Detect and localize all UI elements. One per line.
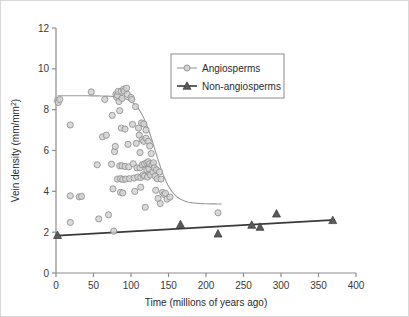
data-point-angiosperm (153, 187, 159, 193)
data-point-angiosperm (112, 143, 118, 149)
data-point-non-angiosperm (273, 210, 281, 217)
angiosperm-points (54, 85, 221, 234)
data-point-angiosperm (108, 161, 114, 167)
x-tick-label: 50 (88, 280, 100, 291)
data-point-angiosperm (67, 219, 73, 225)
data-point-angiosperm (102, 96, 108, 102)
data-point-angiosperm (141, 121, 147, 127)
x-tick-label: 250 (235, 280, 252, 291)
x-tick-label: 0 (53, 280, 59, 291)
data-point-angiosperm (111, 228, 117, 234)
legend-label-angiosperms: Angiosperms (202, 63, 260, 74)
data-point-angiosperm (67, 193, 73, 199)
data-point-angiosperm (122, 126, 128, 132)
data-point-angiosperm (133, 140, 139, 146)
data-point-angiosperm (110, 186, 116, 192)
data-point-angiosperm (147, 143, 153, 149)
chart-figure: 050100150200250300350400024681012Time (m… (0, 0, 409, 317)
data-point-angiosperm (132, 188, 138, 194)
data-point-angiosperm (215, 210, 221, 216)
x-tick-label: 350 (310, 280, 327, 291)
data-point-angiosperm (123, 85, 129, 91)
data-point-angiosperm (157, 200, 163, 206)
data-point-angiosperm (109, 112, 115, 118)
y-axis-title: Vein density (mm/mm2) (10, 99, 22, 202)
data-point-angiosperm (78, 193, 84, 199)
data-point-angiosperm (94, 162, 100, 168)
data-point-angiosperm (148, 150, 154, 156)
data-point-angiosperm (88, 89, 94, 95)
y-tick-label: 4 (43, 186, 49, 197)
x-tick-label: 400 (348, 280, 365, 291)
data-point-angiosperm (117, 108, 123, 114)
data-point-angiosperm (125, 141, 131, 147)
x-tick-label: 150 (160, 280, 177, 291)
x-tick-label: 300 (273, 280, 290, 291)
data-point-angiosperm (143, 127, 149, 133)
data-point-angiosperm (96, 216, 102, 222)
data-point-angiosperm (132, 104, 138, 110)
x-axis-title: Time (millions of years ago) (145, 297, 267, 308)
legend-marker-angiosperms (184, 65, 190, 71)
data-point-angiosperm (158, 176, 164, 182)
data-point-angiosperm (142, 204, 148, 210)
data-point-angiosperm (57, 96, 63, 102)
data-point-angiosperm (137, 149, 143, 155)
y-tick-label: 6 (43, 145, 49, 156)
data-point-angiosperm (67, 122, 73, 128)
data-point-angiosperm (167, 194, 173, 200)
data-point-angiosperm (129, 121, 135, 127)
data-point-non-angiosperm (214, 230, 222, 237)
y-tick-label: 8 (43, 104, 49, 115)
data-point-angiosperm (156, 169, 162, 175)
y-tick-label: 2 (43, 227, 49, 238)
legend: AngiospermsNon-angiosperms (171, 54, 284, 98)
legend-label-non-angiosperms: Non-angiosperms (202, 81, 281, 92)
data-point-non-angiosperm (177, 220, 185, 227)
y-tick-label: 12 (38, 23, 50, 34)
data-point-angiosperm (119, 95, 125, 101)
scatter-plot: 050100150200250300350400024681012Time (m… (1, 1, 409, 317)
x-tick-label: 100 (123, 280, 140, 291)
y-tick-label: 0 (43, 268, 49, 279)
y-tick-label: 10 (38, 63, 50, 74)
data-point-angiosperm (103, 132, 109, 138)
data-point-angiosperm (120, 190, 126, 196)
data-point-angiosperm (105, 212, 111, 218)
data-point-angiosperm (129, 96, 135, 102)
x-tick-label: 200 (198, 280, 215, 291)
data-point-angiosperm (138, 184, 144, 190)
